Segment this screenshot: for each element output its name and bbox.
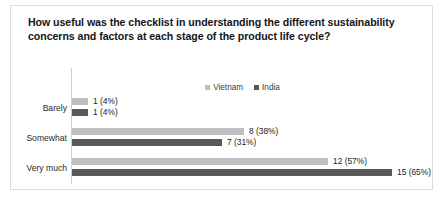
bar-rect	[72, 139, 222, 146]
category-label-somewhat: Somewhat	[11, 133, 67, 143]
bar-rect	[72, 109, 88, 116]
bar-rect	[72, 169, 392, 176]
bar-group: 1 (4%) 1 (4%)	[72, 94, 434, 122]
chart-category-group: Very much 12 (57%) 15 (65%)	[11, 154, 434, 182]
chart-category-group: Barely 1 (4%) 1 (4%)	[11, 94, 434, 122]
bar-rect	[72, 128, 244, 135]
bar-value-label: 15 (65%)	[397, 168, 431, 176]
chart-plot-area: Barely 1 (4%) 1 (4%) Somewhat 8 (38%)	[11, 58, 434, 186]
chart-category-group: Somewhat 8 (38%) 7 (31%)	[11, 124, 434, 152]
category-label-very-much: Very much	[11, 163, 67, 173]
bar-vietnam-very-much[interactable]: 12 (57%)	[72, 158, 367, 165]
bar-value-label: 12 (57%)	[333, 157, 367, 165]
bar-group: 8 (38%) 7 (31%)	[72, 124, 434, 152]
page-title: How useful was the checklist in understa…	[28, 15, 416, 44]
bar-vietnam-somewhat[interactable]: 8 (38%)	[72, 128, 278, 135]
bar-india-very-much[interactable]: 15 (65%)	[72, 169, 431, 176]
bar-vietnam-barely[interactable]: 1 (4%)	[72, 98, 118, 105]
bar-value-label: 1 (4%)	[93, 97, 118, 105]
bar-rect	[72, 98, 88, 105]
category-label-barely: Barely	[11, 103, 67, 113]
bar-value-label: 7 (31%)	[227, 138, 256, 146]
bar-value-label: 1 (4%)	[93, 108, 118, 116]
bar-value-label: 8 (38%)	[249, 127, 278, 135]
bar-rect	[72, 158, 328, 165]
bar-india-somewhat[interactable]: 7 (31%)	[72, 139, 256, 146]
bar-india-barely[interactable]: 1 (4%)	[72, 109, 118, 116]
bar-group: 12 (57%) 15 (65%)	[72, 154, 434, 182]
figure-container: How useful was the checklist in understa…	[10, 5, 433, 190]
